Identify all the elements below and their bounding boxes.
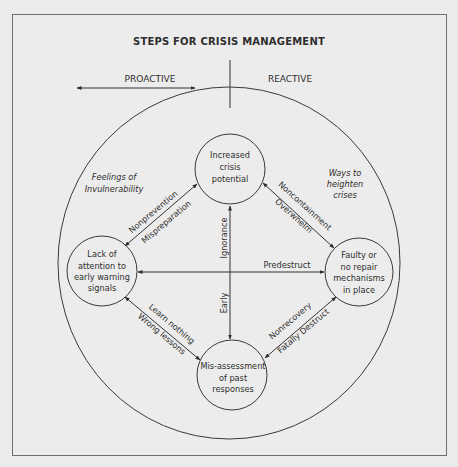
label-predestruct: Predestruct xyxy=(264,260,312,270)
diagram-title: STEPS FOR CRISIS MANAGEMENT xyxy=(133,36,325,47)
svg-text:mechanisms: mechanisms xyxy=(333,273,385,283)
label-ignorance: Ignorance xyxy=(219,218,229,259)
zone-feelings-of-invulnerability: Feelings of Invulnerability xyxy=(85,172,144,194)
node-bottom-text: Mis-assessment of past responses xyxy=(200,361,266,394)
svg-text:responses: responses xyxy=(212,384,253,394)
svg-text:attention to: attention to xyxy=(78,261,126,271)
svg-text:of past: of past xyxy=(219,373,248,383)
node-lack-of-attention xyxy=(67,236,137,306)
svg-text:no repair: no repair xyxy=(341,262,379,272)
label-early: Early xyxy=(219,293,229,314)
svg-text:Ways to: Ways to xyxy=(329,168,362,178)
svg-text:crisis: crisis xyxy=(220,162,241,172)
svg-text:signals: signals xyxy=(88,283,116,293)
svg-text:Lack of: Lack of xyxy=(87,249,117,259)
crisis-diagram: STEPS FOR CRISIS MANAGEMENT PROACTIVE RE… xyxy=(0,0,458,467)
proactive-label: PROACTIVE xyxy=(125,74,176,84)
svg-text:Increased: Increased xyxy=(210,150,250,160)
svg-text:early warning: early warning xyxy=(74,272,130,282)
node-left-text: Lack of attention to early warning signa… xyxy=(74,249,130,293)
node-top-text: Increased crisis potential xyxy=(210,150,250,184)
svg-text:in place: in place xyxy=(343,285,375,295)
svg-text:Faulty or: Faulty or xyxy=(341,250,377,260)
node-right-text: Faulty or no repair mechanisms in place xyxy=(333,250,385,295)
reactive-label: REACTIVE xyxy=(268,74,313,84)
svg-text:crises: crises xyxy=(333,190,357,200)
svg-text:Mis-assessment: Mis-assessment xyxy=(200,361,266,371)
node-faulty-repair xyxy=(325,238,393,306)
zone-ways-to-heighten-crises: Ways to heighten crises xyxy=(327,168,363,200)
svg-text:heighten: heighten xyxy=(327,179,363,189)
svg-text:Feelings of: Feelings of xyxy=(92,172,138,182)
svg-text:Invulnerability: Invulnerability xyxy=(85,184,144,194)
svg-text:potential: potential xyxy=(212,174,248,184)
